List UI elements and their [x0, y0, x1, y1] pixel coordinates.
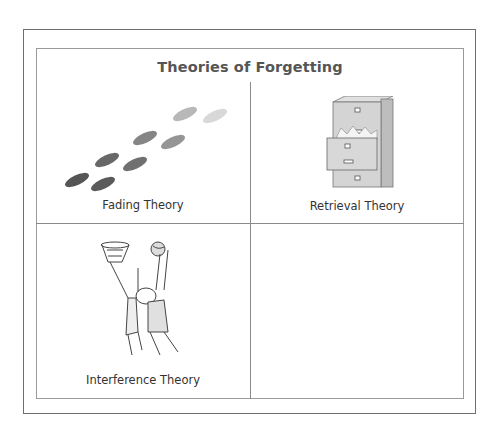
- diagram-title: Theories of Forgetting: [36, 59, 464, 75]
- retrieval-theory-label: Retrieval Theory: [250, 199, 464, 213]
- empty-quadrant: [251, 224, 463, 398]
- fading-theory-label: Fading Theory: [36, 198, 250, 212]
- filing-cabinet-icon: [325, 96, 395, 188]
- interference-theory-label: Interference Theory: [36, 373, 250, 387]
- footprints-icon: [55, 92, 235, 192]
- basketball-players-icon: [98, 240, 198, 358]
